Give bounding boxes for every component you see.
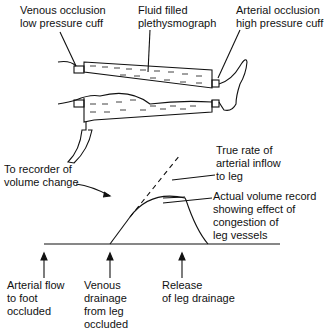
label-venous-cuff: Venous occlusion low pressure cuff xyxy=(20,4,106,30)
label-recorder: To recorder of volume change xyxy=(4,163,79,189)
label-true-rate: True rate of arterial inflow to leg xyxy=(216,144,281,183)
label-release: Release of leg drainage xyxy=(162,279,235,305)
label-plethysmograph: Fluid filled plethysmograph xyxy=(138,4,216,30)
label-arterial-cuff: Arterial occlusion high pressure cuff xyxy=(236,4,323,30)
label-venous-drainage: Venous drainage from leg occluded xyxy=(84,279,128,331)
label-arterial-flow: Arterial flow to foot occluded xyxy=(7,279,64,318)
label-actual-record: Actual volume record showing effect of c… xyxy=(213,190,316,242)
